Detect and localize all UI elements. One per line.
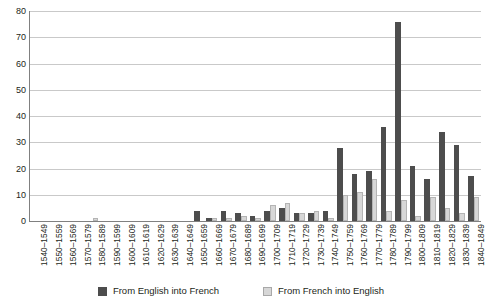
- bar-series-1[interactable]: [430, 197, 436, 221]
- bar-group: [234, 11, 249, 221]
- bar-group: [423, 11, 438, 221]
- bar-series-1[interactable]: [415, 216, 421, 221]
- y-axis-tick-label: 70: [0, 33, 26, 42]
- y-axis: 01020304050607080: [0, 0, 26, 232]
- y-axis-tick-label: 80: [0, 7, 26, 16]
- bar-group: [350, 11, 365, 221]
- bar-group: [365, 11, 380, 221]
- x-axis-tick: 1540–1549: [29, 224, 44, 284]
- bar-series-0[interactable]: [454, 145, 460, 221]
- dark-square-icon: [98, 287, 107, 296]
- x-axis-tick: 1830–1839: [451, 224, 466, 284]
- bar-series-1[interactable]: [343, 195, 349, 221]
- y-axis-tick-label: 0: [0, 217, 26, 226]
- bar-series-1[interactable]: [314, 211, 320, 222]
- bar-series-0[interactable]: [410, 166, 416, 221]
- x-axis-tick: 1610–1619: [131, 224, 146, 284]
- x-axis-tick: 1740–1749: [320, 224, 335, 284]
- x-axis-tick: 1840–1849: [465, 224, 480, 284]
- x-axis-tick: 1590–1599: [102, 224, 117, 284]
- bar-series-1[interactable]: [226, 218, 232, 221]
- bar-group: [146, 11, 161, 221]
- bar-series-1[interactable]: [445, 208, 451, 221]
- x-axis-tick: 1690–1699: [247, 224, 262, 284]
- bar-group: [88, 11, 103, 221]
- x-axis-tick: 1700–1709: [262, 224, 277, 284]
- legend-label: From French into English: [278, 286, 384, 296]
- bar-group: [132, 11, 147, 221]
- x-axis-tick: 1810–1819: [422, 224, 437, 284]
- bar-group: [335, 11, 350, 221]
- bar-group: [161, 11, 176, 221]
- x-axis-tick: 1800–1809: [407, 224, 422, 284]
- y-axis-tick-label: 40: [0, 112, 26, 121]
- bar-series-1[interactable]: [474, 197, 480, 221]
- x-axis: 1540–15491550–15591560–15691570–15791580…: [29, 224, 480, 284]
- bar-group: [175, 11, 190, 221]
- x-axis-tick: 1550–1559: [44, 224, 59, 284]
- x-axis-tick: 1670–1679: [218, 224, 233, 284]
- x-axis-tick: 1750–1759: [334, 224, 349, 284]
- chart-legend: From English into FrenchFrom French into…: [0, 286, 482, 296]
- y-axis-tick-label: 60: [0, 59, 26, 68]
- bar-group: [263, 11, 278, 221]
- x-axis-tick: 1710–1719: [276, 224, 291, 284]
- y-axis-tick-label: 50: [0, 85, 26, 94]
- x-axis-tick: 1760–1769: [349, 224, 364, 284]
- x-axis-tick: 1820–1829: [436, 224, 451, 284]
- x-axis-tick-label: 1840–1849: [476, 224, 484, 266]
- light-square-icon: [263, 287, 272, 296]
- x-axis-tick: 1770–1779: [364, 224, 379, 284]
- x-axis-tick: 1620–1629: [145, 224, 160, 284]
- x-axis-tick: 1680–1689: [233, 224, 248, 284]
- bar-series-0[interactable]: [194, 211, 200, 222]
- legend-item[interactable]: From French into English: [263, 286, 384, 296]
- bar-group: [248, 11, 263, 221]
- x-axis-tick: 1600–1609: [116, 224, 131, 284]
- bar-group: [219, 11, 234, 221]
- bar-series-1[interactable]: [401, 200, 407, 221]
- bar-series-1[interactable]: [299, 213, 305, 221]
- x-axis-tick: 1650–1659: [189, 224, 204, 284]
- bar-series-0[interactable]: [381, 127, 387, 222]
- bar-series-1[interactable]: [357, 192, 363, 221]
- bar-series-1[interactable]: [241, 216, 247, 221]
- bar-group: [190, 11, 205, 221]
- y-axis-tick-label: 30: [0, 138, 26, 147]
- plot-area: [29, 11, 481, 222]
- bar-group: [379, 11, 394, 221]
- bar-series-1[interactable]: [285, 203, 291, 221]
- bar-group: [45, 11, 60, 221]
- bar-series-1[interactable]: [255, 218, 261, 221]
- legend-label: From English into French: [113, 286, 219, 296]
- bar-series-1[interactable]: [270, 205, 276, 221]
- x-axis-tick: 1570–1579: [73, 224, 88, 284]
- bar-group: [408, 11, 423, 221]
- bar-series-1[interactable]: [386, 211, 392, 222]
- bar-group: [277, 11, 292, 221]
- bar-series-1[interactable]: [372, 179, 378, 221]
- x-axis-tick: 1720–1729: [291, 224, 306, 284]
- y-axis-tick-label: 20: [0, 164, 26, 173]
- bar-series-1[interactable]: [93, 218, 99, 221]
- bars-layer: [30, 11, 481, 221]
- bar-group: [59, 11, 74, 221]
- bar-group: [321, 11, 336, 221]
- bar-group: [103, 11, 118, 221]
- bar-group: [74, 11, 89, 221]
- bar-series-0[interactable]: [395, 22, 401, 222]
- legend-item[interactable]: From English into French: [98, 286, 219, 296]
- bar-series-1[interactable]: [212, 218, 218, 221]
- y-axis-tick-label: 10: [0, 190, 26, 199]
- bar-series-1[interactable]: [459, 213, 465, 221]
- x-axis-tick: 1580–1589: [87, 224, 102, 284]
- x-axis-tick: 1640–1649: [174, 224, 189, 284]
- x-axis-tick: 1560–1569: [58, 224, 73, 284]
- bar-series-1[interactable]: [328, 218, 334, 221]
- bar-group: [292, 11, 307, 221]
- plot-wrapper: 01020304050607080: [0, 0, 482, 232]
- bar-group: [205, 11, 220, 221]
- bar-group: [437, 11, 452, 221]
- bar-group: [394, 11, 409, 221]
